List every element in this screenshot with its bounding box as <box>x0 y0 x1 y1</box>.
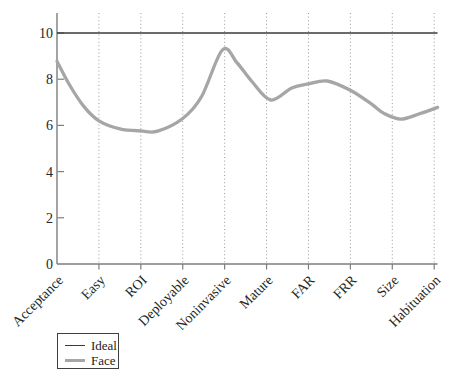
y-tick-label: 4 <box>46 165 53 180</box>
line-chart: 0246810AcceptanceEasyROIDeployableNoninv… <box>0 0 453 330</box>
y-tick-label: 10 <box>39 26 53 41</box>
x-axis-label: Acceptance <box>9 273 66 330</box>
legend-item-ideal: Ideal <box>65 338 118 353</box>
y-tick-label: 6 <box>46 118 53 133</box>
chart-figure: 0246810AcceptanceEasyROIDeployableNoninv… <box>0 0 453 386</box>
y-tick-label: 2 <box>46 211 53 226</box>
x-axis-label: Size <box>374 273 402 301</box>
x-axis-label: Easy <box>78 273 108 303</box>
y-tick-label: 0 <box>46 257 53 272</box>
x-axis-label: FRR <box>330 272 360 302</box>
x-axis-label: Mature <box>236 273 275 312</box>
face-curve <box>57 49 438 133</box>
legend-item-face: Face <box>65 353 118 368</box>
x-axis-label: FAR <box>288 272 318 302</box>
legend-label-ideal: Ideal <box>91 338 117 353</box>
face-line-sample <box>65 359 85 362</box>
legend: Ideal Face <box>57 333 119 369</box>
legend-label-face: Face <box>91 353 116 368</box>
ideal-line-sample <box>65 345 85 347</box>
x-axis-label: ROI <box>122 272 150 300</box>
y-tick-label: 8 <box>46 72 53 87</box>
